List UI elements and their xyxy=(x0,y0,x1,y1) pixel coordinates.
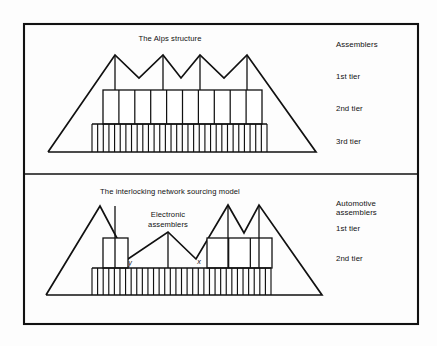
alps-label-3rd-tier: 3rd tier xyxy=(336,137,361,146)
node-label-x: x xyxy=(196,257,201,266)
diagram-canvas: The Alps structure Assemblers 1st tier 2… xyxy=(0,0,437,346)
inter-label-1st-tier: 1st tier xyxy=(336,224,361,233)
alps-label-assemblers: Assemblers xyxy=(336,40,378,49)
alps-label-1st-tier: 1st tier xyxy=(336,72,361,81)
inter-label-assemblers: assemblers xyxy=(336,208,377,217)
interlocking-panel-title: The interlocking network sourcing model xyxy=(100,187,240,196)
interlocking-tier1-right-band xyxy=(207,238,272,268)
figure-background xyxy=(0,0,437,346)
label-electronic: Electronic xyxy=(151,210,185,219)
inter-label-automotive: Automotive xyxy=(336,199,376,208)
label-electronic-assemblers: assemblers xyxy=(148,220,188,229)
alps-label-2nd-tier: 2nd tier xyxy=(336,104,363,113)
inter-label-2nd-tier: 2nd tier xyxy=(336,254,363,263)
alps-panel-title: The Alps structure xyxy=(139,34,202,43)
figure-root: The Alps structure Assemblers 1st tier 2… xyxy=(0,0,437,346)
node-label-y: y xyxy=(127,258,132,267)
interlocking-inline-labels: Electronic assemblers xyxy=(148,210,188,229)
